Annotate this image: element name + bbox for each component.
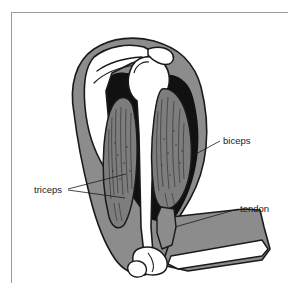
biceps-tendon-group bbox=[157, 207, 176, 249]
biceps-tendon bbox=[157, 207, 176, 249]
biceps-label-text: biceps bbox=[223, 135, 251, 146]
arm-anatomy-illustration: biceps triceps tendon bbox=[12, 13, 289, 284]
figure-root: biceps triceps tendon bbox=[0, 0, 300, 295]
forearm-group bbox=[162, 209, 270, 271]
olecranon bbox=[128, 261, 147, 277]
tendon-label-text: tendon bbox=[240, 203, 269, 214]
figure-frame: biceps triceps tendon bbox=[11, 12, 288, 283]
triceps-label-text: triceps bbox=[34, 184, 62, 195]
